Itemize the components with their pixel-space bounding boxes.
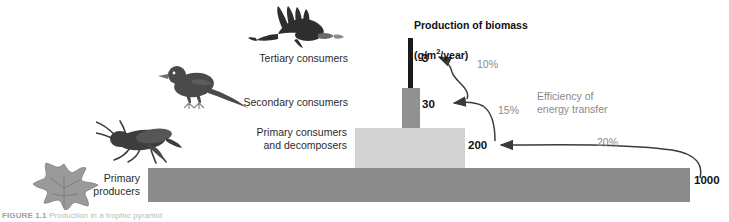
figure-caption-number: FIGURE 1.1 xyxy=(2,211,47,220)
chart-title: Production of biomass (g/m2/year) xyxy=(414,6,528,62)
value-primary-consumers: 200 xyxy=(468,139,487,151)
cricket-illustration xyxy=(96,116,182,164)
bar-primary-producers xyxy=(148,168,690,202)
chart-title-line2-suffix: /year) xyxy=(440,49,468,61)
bar-primary-consumers xyxy=(355,128,465,168)
percent-label-20: 20% xyxy=(597,136,618,148)
percent-label-15: 15% xyxy=(498,104,519,116)
value-primary-producers: 1000 xyxy=(694,174,720,186)
tier-label-primary-consumers: Primary consumers and decomposers xyxy=(175,126,347,151)
tier-label-secondary-consumers: Secondary consumers xyxy=(180,96,348,109)
chart-title-line1: Production of biomass xyxy=(414,19,528,31)
bar-tertiary-consumers xyxy=(408,38,413,88)
figure-caption: FIGURE 1.1 Production in a trophic pyram… xyxy=(2,211,162,220)
tier-label-primary-producers: Primary producers xyxy=(52,172,140,197)
value-tertiary-consumers: 3 xyxy=(422,52,428,64)
figure-caption-text: Production in a trophic pyramid xyxy=(49,211,162,220)
tier-label-tertiary-consumers: Tertiary consumers xyxy=(180,52,348,65)
bar-secondary-consumers xyxy=(402,88,420,128)
efficiency-of-energy-transfer-caption: Efficiency of energy transfer xyxy=(537,90,608,115)
percent-label-10: 10% xyxy=(477,58,498,70)
arrow-transfer-10-percent xyxy=(439,57,468,99)
energy-pyramid-figure: Production of biomass (g/m2/year) Tertia… xyxy=(0,0,729,222)
value-secondary-consumers: 30 xyxy=(422,98,435,110)
